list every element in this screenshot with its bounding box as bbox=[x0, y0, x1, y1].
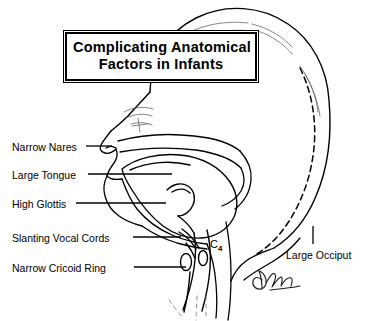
label-narrow-nares: Narrow Nares bbox=[12, 141, 77, 153]
label-high-glottis: High Glottis bbox=[12, 198, 66, 210]
label-large-tongue: Large Tongue bbox=[12, 169, 76, 181]
c4-letter: C bbox=[210, 238, 218, 250]
figure-title-line-2: Factors in Infants bbox=[73, 56, 249, 73]
figure-title-line-1: Complicating Anatomical bbox=[73, 39, 249, 56]
anatomical-diagram-figure: Complicating Anatomical Factors in Infan… bbox=[0, 0, 365, 321]
label-slanting-vocal-cords: Slanting Vocal Cords bbox=[12, 232, 109, 244]
figure-title-inner: Complicating Anatomical Factors in Infan… bbox=[65, 32, 257, 81]
c4-subscript: 4 bbox=[218, 244, 222, 253]
figure-title-box: Complicating Anatomical Factors in Infan… bbox=[63, 30, 259, 83]
label-narrow-cricoid-ring: Narrow Cricoid Ring bbox=[12, 262, 106, 274]
label-large-occiput: Large Occiput bbox=[286, 249, 351, 261]
label-c4-vertebra: C4 bbox=[210, 238, 222, 253]
